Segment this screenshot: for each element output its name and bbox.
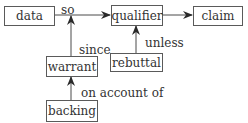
- node-rebuttal: rebuttal: [110, 53, 163, 72]
- node-warrant-label: warrant: [48, 60, 97, 74]
- node-data: data: [4, 6, 55, 26]
- edge-label-on-account-of: on account of: [81, 87, 163, 99]
- node-data-label: data: [16, 9, 43, 23]
- node-claim: claim: [193, 6, 243, 26]
- node-qualifier-label: qualifier: [111, 9, 162, 23]
- node-warrant: warrant: [46, 56, 98, 77]
- edge-label-so: so: [61, 4, 74, 16]
- node-backing: backing: [46, 100, 98, 122]
- edge-label-unless: unless: [145, 37, 184, 49]
- node-claim-label: claim: [202, 9, 235, 23]
- node-backing-label: backing: [48, 104, 96, 118]
- edge-label-since: since: [79, 44, 111, 56]
- node-qualifier: qualifier: [111, 5, 163, 26]
- node-rebuttal-label: rebuttal: [112, 56, 161, 70]
